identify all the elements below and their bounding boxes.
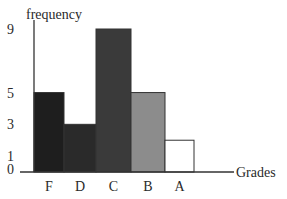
x-tick-D: D — [75, 179, 85, 194]
bars — [34, 29, 194, 172]
y-tick-1: 1 — [7, 149, 14, 164]
y-tick-5: 5 — [7, 86, 14, 101]
x-tick-C: C — [109, 179, 118, 194]
x-tick-B: B — [143, 179, 152, 194]
x-tick-labels: FDCBA — [45, 179, 185, 194]
y-tick-labels: 01359 — [7, 22, 14, 177]
x-tick-F: F — [45, 179, 53, 194]
y-axis-label: frequency — [26, 7, 82, 22]
y-tick-9: 9 — [7, 22, 14, 37]
y-tick-3: 3 — [7, 117, 14, 132]
y-tick-0: 0 — [7, 162, 14, 177]
bar-D — [64, 124, 96, 172]
x-tick-A: A — [174, 179, 185, 194]
bar-B — [131, 93, 165, 172]
histogram-chart: frequency Grades 01359 FDCBA — [0, 0, 287, 199]
bar-A — [165, 140, 194, 172]
x-axis-label: Grades — [236, 165, 276, 180]
bar-C — [96, 29, 131, 172]
bar-F — [34, 93, 64, 172]
